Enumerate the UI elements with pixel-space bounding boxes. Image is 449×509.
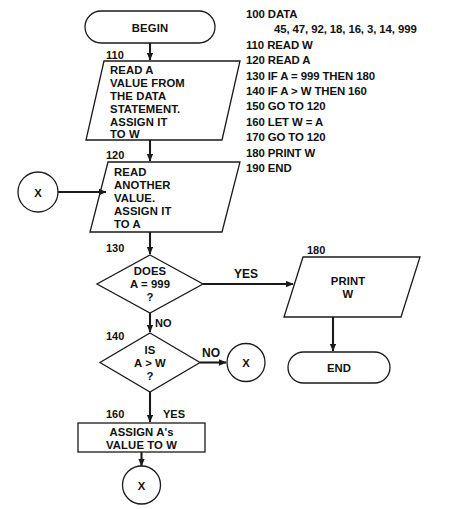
read-a-line-5: TO A: [114, 218, 141, 230]
flowchart-page: BEGIN 110 READ A VALUE FROM THE DATA STA…: [0, 0, 449, 509]
read-w-line-5: ASSIGN IT: [110, 116, 167, 128]
test-gt-line-2: A > W: [134, 357, 166, 369]
code-line: 160 LET W = A: [246, 115, 446, 130]
basic-code-listing: 100 DATA 45, 47, 92, 18, 16, 3, 14, 999 …: [246, 7, 446, 176]
node-read-w: READ A VALUE FROM THE DATA STATEMENT. AS…: [86, 61, 240, 140]
print-w-shape: [284, 257, 420, 317]
test-999-line-2: A = 999: [130, 278, 170, 290]
branch-label-yes-gt: YES: [163, 408, 185, 420]
end-label: END: [327, 362, 351, 374]
code-line: 180 PRINT W: [246, 146, 446, 161]
begin-label: BEGIN: [132, 22, 168, 34]
test-999-line-1: DOES: [134, 265, 167, 277]
code-line: 190 END: [246, 161, 446, 176]
code-line: 100 DATA: [246, 7, 446, 22]
step-label-140: 140: [106, 330, 124, 342]
node-assign: ASSIGN A's VALUE TO W: [78, 423, 205, 452]
connector-bottom: X: [123, 466, 161, 504]
connector-right-label: X: [242, 357, 250, 369]
assign-line-1: ASSIGN A's: [109, 426, 173, 438]
code-line: 120 READ A: [246, 53, 446, 68]
code-line: 140 IF A > W THEN 160: [246, 84, 446, 99]
connector-right: X: [227, 344, 265, 382]
branch-label-no-gt: NO: [202, 346, 220, 360]
read-a-line-1: READ: [114, 166, 146, 178]
step-label-110: 110: [106, 49, 124, 61]
assign-line-2: VALUE TO W: [106, 439, 177, 451]
read-a-line-4: ASSIGN IT: [114, 205, 171, 217]
branch-label-no-999: NO: [155, 317, 172, 329]
code-line: 45, 47, 92, 18, 16, 3, 14, 999: [246, 22, 446, 37]
node-read-a: READ ANOTHER VALUE. ASSIGN IT TO A: [90, 162, 240, 232]
connector-left: X: [18, 172, 58, 212]
read-a-line-2: ANOTHER: [114, 179, 171, 191]
read-w-line-1: READ A: [110, 64, 154, 76]
read-w-line-3: THE DATA: [110, 90, 166, 102]
node-end: END: [288, 352, 390, 383]
print-w-line-2: W: [343, 288, 354, 300]
test-999-line-3: ?: [146, 291, 153, 303]
code-line: 170 GO TO 120: [246, 130, 446, 145]
connector-bottom-label: X: [138, 480, 146, 492]
read-a-shape: [90, 162, 240, 232]
read-w-line-2: VALUE FROM: [110, 77, 185, 89]
node-test-999: DOES A = 999 ?: [97, 255, 203, 313]
print-w-line-1: PRINT: [331, 275, 365, 287]
test-gt-line-3: ?: [146, 370, 153, 382]
code-line: 110 READ W: [246, 38, 446, 53]
step-label-120: 120: [106, 149, 124, 161]
step-label-130: 130: [106, 242, 124, 254]
test-gt-line-1: IS: [145, 344, 156, 356]
node-print-w: PRINT W: [284, 257, 420, 317]
branch-label-yes-999: YES: [234, 267, 258, 281]
code-line: 150 GO TO 120: [246, 99, 446, 114]
step-label-180: 180: [307, 244, 325, 256]
read-w-line-6: TO W: [110, 128, 140, 140]
read-a-line-3: VALUE.: [114, 192, 155, 204]
node-begin: BEGIN: [85, 11, 215, 43]
read-w-line-4: STATEMENT.: [110, 103, 180, 115]
step-label-160: 160: [106, 408, 124, 420]
connector-left-label: X: [34, 187, 42, 199]
code-line: 130 IF A = 999 THEN 180: [246, 69, 446, 84]
